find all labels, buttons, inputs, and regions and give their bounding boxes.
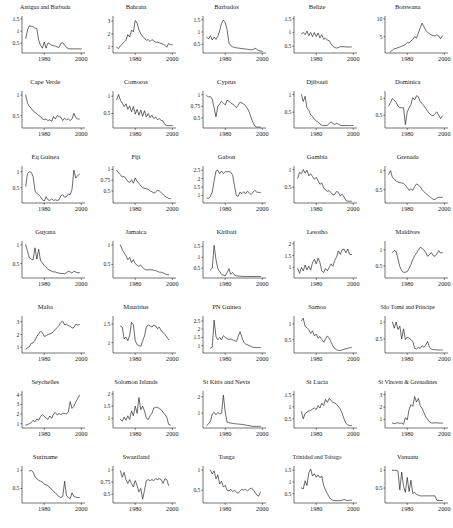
panel-title: Kiribati: [216, 228, 236, 236]
y-tick-label: 3: [379, 392, 382, 398]
y-tick-label: 1.5: [194, 243, 201, 249]
y-tick-label: 1: [379, 247, 382, 253]
panel-title: St Lucia: [306, 378, 328, 386]
series-line: [120, 471, 168, 499]
plot-area: 0.5119802000: [2, 462, 88, 514]
y-tick-label: 1: [17, 344, 20, 350]
plot-area: 0.5119802000: [365, 162, 451, 214]
x-tick-label: 1980: [38, 505, 50, 512]
y-tick-label: 0.5: [375, 263, 382, 269]
line-chart-svg: 11.522.519802000: [183, 312, 269, 364]
line-chart-svg: 0.511.519802000: [183, 12, 269, 64]
panel-gambia: Gambia0.5119802000: [272, 150, 363, 225]
series-line: [298, 170, 352, 202]
y-tick-label: 1.5: [284, 253, 291, 259]
plot-area: 0.5119802000: [365, 312, 451, 364]
y-tick-label: 2: [379, 404, 382, 410]
plot-area: 12319802000: [365, 387, 451, 439]
x-tick-label: 2000: [257, 130, 269, 137]
y-tick-label: 0.5: [375, 112, 382, 118]
y-tick-label: 1: [17, 92, 20, 98]
plot-area: 0.511.519802000: [274, 387, 360, 439]
x-tick-label: 1980: [220, 355, 232, 362]
panel-title: Malta: [38, 303, 53, 311]
x-tick-label: 1980: [38, 355, 50, 362]
series-line: [211, 245, 261, 276]
panel-dominica: Dominica0.5119802000: [362, 75, 453, 150]
panel-title: Gabon: [218, 153, 235, 161]
series-line: [392, 397, 442, 425]
panel-title: Seychelles: [31, 378, 59, 386]
y-tick-label: 1: [107, 166, 110, 172]
x-tick-label: 2000: [347, 280, 359, 287]
y-tick-label: 0.5: [375, 336, 382, 342]
x-tick-label: 2000: [438, 280, 450, 287]
line-chart-svg: 0.5119802000: [2, 237, 88, 289]
series-line: [207, 170, 261, 198]
x-tick-label: 1980: [220, 205, 232, 212]
y-tick-label: 0.5: [103, 110, 110, 116]
panel-comoros: Comoros0.5119802000: [91, 75, 182, 150]
y-tick-label: 0.5: [194, 115, 201, 121]
y-tick-label: 1: [17, 169, 20, 175]
y-tick-label: 1.5: [284, 467, 291, 473]
plot-area: 11.522.519802000: [183, 162, 269, 214]
line-chart-svg: 0.5119802000: [2, 462, 88, 514]
panel-fiji: Fiji0.50.75119802000: [91, 150, 182, 225]
plot-area: 0.5119802000: [93, 87, 179, 139]
panel-botswana: Botswana51019802000: [362, 0, 453, 75]
x-tick-label: 2000: [75, 505, 87, 512]
y-tick-label: 2: [198, 394, 201, 400]
x-tick-label: 2000: [257, 280, 269, 287]
x-tick-label: 2000: [347, 205, 359, 212]
panel-title: Suriname: [33, 453, 58, 461]
line-chart-svg: 0.50.75119802000: [93, 162, 179, 214]
panel-barbados: Barbados0.511.519802000: [181, 0, 272, 75]
plot-area: 0.5119802000: [2, 87, 88, 139]
y-tick-label: 1: [107, 415, 110, 421]
panel-title: PN Guinea: [212, 303, 241, 311]
y-tick-label: 0.75: [100, 479, 110, 485]
x-tick-label: 2000: [75, 355, 87, 362]
y-tick-label: 4: [17, 392, 20, 398]
y-tick-label: 1: [379, 467, 382, 473]
y-tick-label: 2: [198, 326, 201, 332]
panel-vanuatu: Vanuatu0.5119802000: [362, 450, 453, 525]
y-tick-label: 2.5: [194, 318, 201, 324]
line-chart-svg: 0.511.519802000: [2, 12, 88, 64]
x-tick-label: 2000: [166, 130, 178, 137]
x-tick-label: 2000: [438, 130, 450, 137]
y-tick-label: 1: [198, 92, 201, 98]
x-tick-label: 1980: [220, 55, 232, 62]
panel-title: Tonga: [218, 453, 234, 461]
y-tick-label: 1: [17, 242, 20, 248]
line-chart-svg: 0.5119802000: [93, 237, 179, 289]
x-tick-label: 2000: [75, 430, 87, 437]
line-chart-svg: 51019802000: [365, 12, 451, 64]
y-tick-label: 1: [198, 192, 201, 198]
x-tick-label: 1980: [310, 205, 322, 212]
line-chart-svg: 12319802000: [365, 387, 451, 439]
y-tick-label: 1: [289, 321, 292, 327]
panel-solomon-islands: Solomon Islands11.5219802000: [91, 375, 182, 450]
y-tick-label: 0.5: [284, 184, 291, 190]
y-tick-label: 2: [198, 176, 201, 182]
y-tick-label: 1: [289, 479, 292, 485]
y-tick-label: 1: [198, 467, 201, 473]
x-tick-label: 2000: [347, 355, 359, 362]
series-line: [26, 321, 80, 349]
x-tick-label: 2000: [438, 430, 450, 437]
panel-title: Comoros: [124, 78, 148, 86]
x-tick-label: 2000: [166, 505, 178, 512]
x-tick-label: 2000: [257, 355, 269, 362]
panel-eq-guinea: Eq Guinea0.5119802000: [0, 150, 91, 225]
panel-seychelles: Seychelles123419802000: [0, 375, 91, 450]
x-tick-label: 2000: [438, 55, 450, 62]
y-tick-label: 2: [289, 241, 292, 247]
panel-title: Fiji: [131, 153, 140, 161]
y-tick-label: 0.5: [284, 416, 291, 422]
panel-title: St Vincent & Grenadines: [378, 378, 437, 386]
small-multiples-grid: Antigua and Barbuda0.511.519802000Bahrai…: [0, 0, 453, 528]
line-chart-svg: 0.5119802000: [183, 462, 269, 514]
x-tick-label: 2000: [438, 355, 450, 362]
